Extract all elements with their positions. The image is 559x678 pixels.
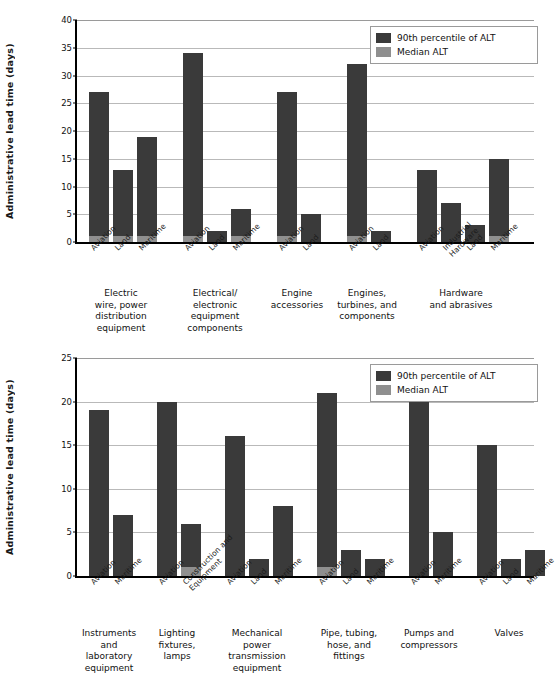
y-tick-mark <box>73 445 77 446</box>
y-tick-mark <box>73 242 77 243</box>
y-tick-mark <box>73 488 77 489</box>
chart-legend: 90th percentile of ALTMedian ALT <box>370 364 538 402</box>
bar-p90 <box>137 137 157 242</box>
category-label: Electricwire, powerdistributionequipment <box>69 288 173 334</box>
category-label: Engines,turbines, andcomponents <box>315 288 419 323</box>
legend-swatch-median <box>376 47 391 57</box>
legend-label: 90th percentile of ALT <box>397 371 495 381</box>
chart-bottom-administrative-lead-time: Administrative lead time (days)051015202… <box>0 348 549 678</box>
legend-swatch-p90 <box>376 33 391 43</box>
legend-item-median: Median ALT <box>376 383 530 397</box>
chart-legend: 90th percentile of ALTMedian ALT <box>370 26 538 64</box>
category-label: Valves <box>457 628 559 640</box>
y-tick-mark <box>73 47 77 48</box>
gridline <box>77 76 534 77</box>
y-axis-label: Administrative lead time (days) <box>4 358 18 576</box>
bar-p90 <box>277 92 297 242</box>
legend-label: Median ALT <box>397 385 448 395</box>
y-tick-mark <box>73 103 77 104</box>
gridline <box>77 20 534 21</box>
bar-p90 <box>409 393 429 576</box>
legend-swatch-p90 <box>376 371 391 381</box>
gridline <box>77 489 534 490</box>
y-tick-mark <box>73 358 77 359</box>
legend-label: 90th percentile of ALT <box>397 33 495 43</box>
y-tick-mark <box>73 532 77 533</box>
legend-item-median: Median ALT <box>376 45 530 59</box>
bar-p90 <box>317 393 337 576</box>
y-tick-mark <box>73 214 77 215</box>
category-label: Hardwareand abrasives <box>409 288 513 311</box>
legend-item-p90: 90th percentile of ALT <box>376 31 530 45</box>
bar-p90 <box>89 92 109 242</box>
y-tick-mark <box>73 20 77 21</box>
y-tick-mark <box>73 75 77 76</box>
y-tick-mark <box>73 131 77 132</box>
gridline <box>77 532 534 533</box>
legend-label: Median ALT <box>397 47 448 57</box>
y-tick-mark <box>73 186 77 187</box>
legend-item-p90: 90th percentile of ALT <box>376 369 530 383</box>
gridline <box>77 103 534 104</box>
bar-p90 <box>157 402 177 576</box>
bar-p90 <box>89 410 109 576</box>
gridline <box>77 131 534 132</box>
gridline <box>77 445 534 446</box>
y-axis-label: Administrative lead time (days) <box>4 20 18 242</box>
bar-p90 <box>477 445 497 576</box>
legend-swatch-median <box>376 385 391 395</box>
bar-p90 <box>183 53 203 242</box>
bar-p90 <box>347 64 367 242</box>
gridline <box>77 358 534 359</box>
chart-top-administrative-lead-time: Administrative lead time (days)051015202… <box>0 0 549 340</box>
y-tick-mark <box>73 576 77 577</box>
y-tick-mark <box>73 158 77 159</box>
category-label: Mechanicalpowertransmissionequipment <box>205 628 309 674</box>
y-tick-mark <box>73 401 77 402</box>
